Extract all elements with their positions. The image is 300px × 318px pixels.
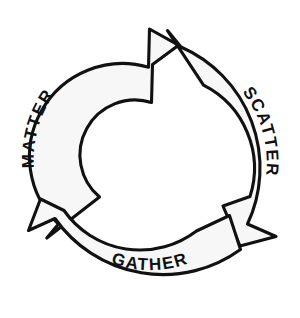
cycle-diagram-canvas: MATTER SCATTER GATHER [0,0,300,318]
cycle-diagram: MATTER SCATTER GATHER [0,0,300,318]
segment-scatter [168,31,277,246]
segment-scatter-band [168,31,277,246]
